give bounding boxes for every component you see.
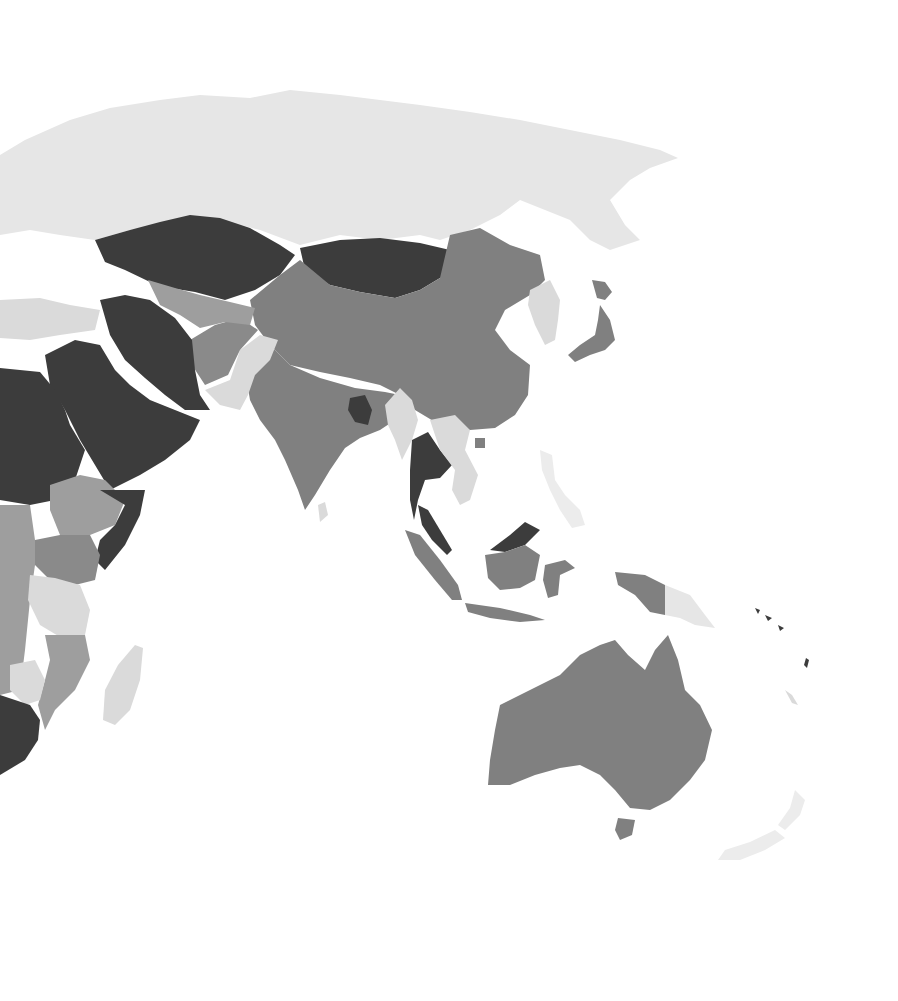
choropleth-map: [0, 0, 898, 1001]
region-hainan[interactable]: [475, 438, 485, 448]
